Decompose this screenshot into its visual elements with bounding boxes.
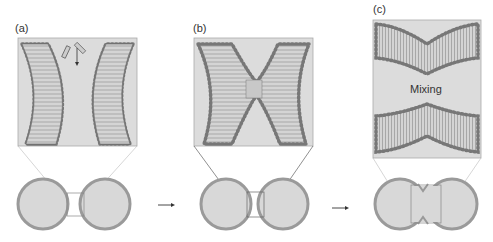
panel-a-zoom: [18, 38, 137, 146]
arrow-icon: [158, 203, 175, 207]
panel-b-zoom: [194, 38, 313, 146]
mixing-label: Mixing: [410, 83, 442, 95]
cells-b: [201, 179, 308, 229]
cells-c: [375, 179, 477, 229]
membrane-fusion-diagram: [0, 0, 493, 242]
arrow-icon: [332, 206, 349, 210]
cells-a: [18, 179, 130, 229]
